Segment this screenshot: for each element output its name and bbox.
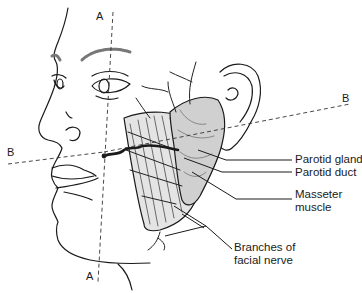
axis-b-right-label: B (342, 92, 349, 104)
label-masseter-muscle: Masseter muscle (295, 188, 342, 214)
reference-line-a (98, 12, 113, 282)
ear (220, 64, 260, 150)
leader-facial-nerve-3 (165, 226, 206, 236)
eyebrow (82, 49, 130, 60)
neck-outline (118, 264, 132, 290)
nostril (66, 127, 80, 140)
eye-outline (92, 79, 130, 93)
leader-facial-nerve-stem (206, 226, 232, 249)
nerve-temporal (142, 82, 176, 112)
label-parotid-gland: Parotid gland (295, 153, 362, 166)
eye-iris (99, 79, 109, 93)
axis-a-top-label: A (96, 10, 103, 22)
axis-b-left-label: B (7, 146, 14, 158)
anatomy-diagram: A A B B Parotid gland Parotid duct Masse… (0, 0, 362, 293)
leader-facial-nerve-2 (182, 214, 204, 228)
label-parotid-duct: Parotid duct (295, 166, 356, 179)
label-branches-of-facial-nerve: Branches of facial nerve (234, 241, 295, 267)
face-illustration (0, 0, 362, 293)
lips (52, 165, 96, 176)
axis-a-bottom-label: A (86, 270, 93, 282)
